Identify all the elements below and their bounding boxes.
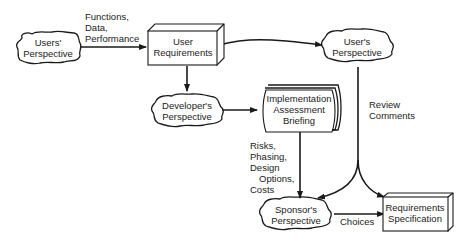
node-label: Users'	[35, 37, 62, 48]
edge-review-to-sponsor	[318, 160, 358, 198]
node-label: Assessment	[273, 104, 325, 115]
node-users-perspective: Users' Perspective	[17, 31, 81, 63]
node-user-requirements: User Requirements	[148, 24, 224, 65]
edge-label-line: Data,	[85, 22, 108, 33]
edge-label-line: Review	[369, 99, 400, 110]
edge-label-line: Risks,	[250, 140, 276, 151]
node-label: Briefing	[283, 115, 315, 126]
edge-label-line: Choices	[340, 216, 375, 227]
edge-label-line: Phasing,	[250, 151, 287, 162]
node-label: Requirements	[153, 47, 212, 58]
edge-label-risks: Risks, Phasing, Design Options, Costs	[250, 140, 294, 195]
edge-label-review: Review Comments	[369, 99, 415, 121]
edge-requirements-to-user-perspective	[219, 40, 322, 45]
node-label: Sponsor's	[275, 204, 317, 215]
edge-label-line: Performance	[85, 33, 139, 44]
node-label: Perspective	[23, 48, 73, 59]
node-label: Perspective	[271, 215, 321, 226]
edge-label-line: Design	[250, 162, 280, 173]
edge-label-line: Functions,	[85, 11, 129, 22]
node-label: Perspective	[332, 47, 382, 58]
node-label: Requirements	[385, 202, 444, 213]
node-implementation-briefing: Implementation Assessment Briefing	[263, 85, 341, 132]
node-requirements-specification: Requirements Specification	[383, 193, 453, 231]
node-label: User	[173, 36, 193, 47]
node-label: Specification	[388, 213, 442, 224]
node-label: User's	[344, 36, 371, 47]
node-label: Developer's	[162, 100, 212, 111]
edge-label-line: Costs	[250, 184, 275, 195]
node-user-perspective: User's Perspective	[321, 29, 393, 62]
node-developer-perspective: Developer's Perspective	[151, 94, 223, 127]
node-label: Implementation	[267, 93, 332, 104]
node-label: Perspective	[162, 111, 212, 122]
edge-label-choices: Choices	[340, 216, 375, 227]
edge-label-line: Comments	[369, 110, 415, 121]
edge-review-to-specification	[358, 160, 384, 197]
diagram-canvas: Users' Perspective User Requirements Use…	[0, 0, 470, 249]
edge-label-line: Options,	[259, 173, 294, 184]
node-sponsor-perspective: Sponsor's Perspective	[259, 197, 331, 230]
edge-label-functions: Functions, Data, Performance	[85, 11, 139, 44]
